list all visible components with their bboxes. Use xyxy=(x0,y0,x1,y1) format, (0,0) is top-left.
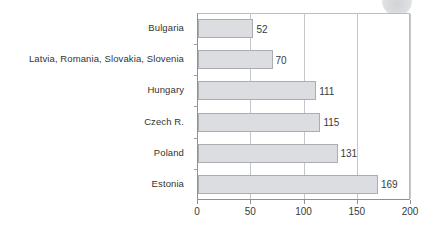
bar-row: 52 xyxy=(198,19,411,38)
bar xyxy=(198,144,338,163)
bar-value-label: 131 xyxy=(338,148,358,159)
x-axis-tick-50 xyxy=(250,200,251,204)
bar-row: 169 xyxy=(198,175,411,194)
bar-value-label: 169 xyxy=(378,179,398,190)
x-axis-tick-0 xyxy=(197,200,198,204)
bar xyxy=(198,81,316,100)
plot-area: 5270111115131169 xyxy=(197,13,410,200)
bar xyxy=(198,113,320,132)
bar-row: 111 xyxy=(198,81,411,100)
gridline-200 xyxy=(410,14,411,199)
x-axis-tick-100 xyxy=(304,200,305,204)
bar-row: 70 xyxy=(198,50,411,69)
category-label: Bulgaria xyxy=(148,22,184,33)
category-label: Poland xyxy=(154,147,184,158)
bar xyxy=(198,175,378,194)
bar xyxy=(198,19,253,38)
bar-value-label: 52 xyxy=(253,23,267,34)
bar xyxy=(198,50,273,69)
y-axis-tick xyxy=(194,44,198,45)
category-label: Hungary xyxy=(147,84,184,95)
gridline-150 xyxy=(357,14,358,199)
bar-value-label: 111 xyxy=(316,85,334,96)
x-axis-tick-label: 150 xyxy=(348,206,365,218)
gridline-100 xyxy=(304,14,305,199)
x-axis-tick-label: 200 xyxy=(402,206,419,218)
gridline-50 xyxy=(250,14,251,199)
y-axis-tick xyxy=(194,75,198,76)
x-axis-tick-200 xyxy=(410,200,411,204)
y-axis-tick xyxy=(194,138,198,139)
x-axis-tick-label: 0 xyxy=(194,206,200,218)
y-axis-tick xyxy=(194,169,198,170)
bar-row: 131 xyxy=(198,144,411,163)
x-axis-tick-150 xyxy=(357,200,358,204)
category-axis-labels: BulgariaLatvia, Romania, Slovakia, Slove… xyxy=(0,13,190,200)
y-axis-tick xyxy=(194,106,198,107)
bar-row: 115 xyxy=(198,113,411,132)
x-axis: 050100150200 xyxy=(197,200,410,232)
category-label: Estonia xyxy=(152,178,184,189)
x-axis-tick-label: 50 xyxy=(245,206,256,218)
category-label: Latvia, Romania, Slovakia, Slovenia xyxy=(29,53,184,64)
bar-value-label: 115 xyxy=(320,117,339,128)
bar-value-label: 70 xyxy=(273,54,287,65)
category-label: Czech R. xyxy=(144,116,184,127)
horizontal-bar-chart: BulgariaLatvia, Romania, Slovakia, Slove… xyxy=(0,0,430,232)
x-axis-tick-label: 100 xyxy=(295,206,312,218)
